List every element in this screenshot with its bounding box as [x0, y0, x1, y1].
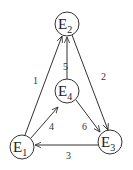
edge-5: 5 [63, 37, 68, 79]
edge-6: 6 [76, 100, 100, 132]
state-diagram: 1 2 3 4 5 6 E1 E2 E3 E4 [0, 0, 133, 170]
edge-6-label: 6 [82, 121, 87, 132]
edge-2-line [72, 35, 108, 130]
edge-5-label: 5 [63, 61, 68, 72]
edge-2: 2 [72, 35, 108, 130]
edge-4: 4 [31, 107, 58, 138]
edge-6-line [76, 100, 100, 132]
node-e4: E4 [55, 79, 79, 103]
edge-3: 3 [35, 145, 98, 161]
edge-4-label: 4 [49, 121, 54, 132]
edge-2-label: 2 [101, 71, 106, 82]
node-e2: E2 [55, 12, 79, 36]
edge-1-label: 1 [33, 75, 38, 86]
node-e3: E3 [98, 130, 122, 154]
node-e1: E1 [10, 135, 34, 159]
edge-3-label: 3 [66, 150, 71, 161]
